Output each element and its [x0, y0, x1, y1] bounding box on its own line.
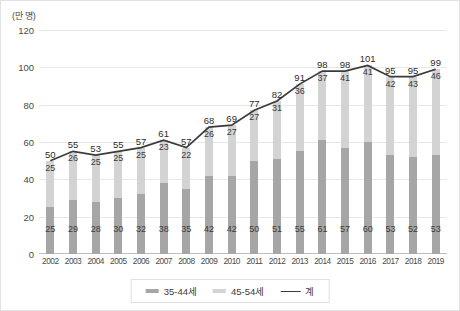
bar-value-label-35-44: 30 — [113, 225, 123, 234]
bar-segment-35-44[interactable] — [182, 189, 190, 254]
bar-segment-35-44[interactable] — [296, 151, 304, 254]
stacked-bar[interactable]: 2530 — [114, 151, 122, 254]
stacked-bar[interactable]: 4352 — [409, 77, 417, 254]
bar-segment-35-44[interactable] — [228, 176, 236, 254]
bar-segment-35-44[interactable] — [160, 183, 168, 254]
total-value-label: 69 — [226, 114, 237, 124]
chart-container: (만 명) 020406080100120 252526292528253025… — [0, 0, 460, 311]
bar-value-label-45-54: 25 — [136, 151, 146, 160]
stacked-bar[interactable]: 3655 — [296, 84, 304, 254]
bar-value-label-35-44: 53 — [431, 225, 441, 234]
bar-segment-35-44[interactable] — [364, 142, 372, 254]
bar-column[interactable]: 2750 — [243, 30, 266, 254]
total-value-label: 98 — [317, 60, 328, 70]
bar-value-label-35-44: 55 — [295, 225, 305, 234]
bar-value-label-35-44: 25 — [45, 225, 55, 234]
x-axis-tick-label: 2011 — [243, 256, 266, 272]
total-value-label: 53 — [90, 144, 101, 154]
stacked-bar[interactable]: 2642 — [205, 127, 213, 254]
stacked-bar[interactable]: 2629 — [69, 151, 77, 254]
total-value-label: 82 — [272, 89, 283, 99]
x-axis-tick-label: 2006 — [130, 256, 153, 272]
y-axis-tick-label: 120 — [18, 25, 34, 36]
stacked-bar[interactable]: 2338 — [160, 140, 168, 254]
bar-value-label-45-54: 42 — [385, 80, 395, 89]
legend-label: 45-54세 — [231, 284, 264, 298]
stacked-bar[interactable]: 4160 — [364, 65, 372, 254]
bar-column[interactable]: 3151 — [266, 30, 289, 254]
stacked-bar[interactable]: 3151 — [273, 101, 281, 254]
bar-segment-35-44[interactable] — [273, 159, 281, 254]
plot-area: 020406080100120 252526292528253025322338… — [39, 30, 447, 254]
bar-segment-35-44[interactable] — [386, 155, 394, 254]
x-axis-tick-label: 2007 — [152, 256, 175, 272]
legend-item[interactable]: 45-54세 — [213, 284, 264, 298]
bar-segment-35-44[interactable] — [341, 148, 349, 254]
legend-line-swatch-icon — [280, 291, 300, 292]
x-axis-tick-label: 2017 — [379, 256, 402, 272]
total-value-label: 95 — [408, 65, 419, 75]
stacked-bar[interactable]: 3761 — [318, 71, 326, 254]
stacked-bar[interactable]: 2528 — [92, 155, 100, 254]
bar-column[interactable]: 2525 — [39, 30, 62, 254]
stacked-bar[interactable]: 2525 — [46, 161, 54, 254]
total-value-label: 50 — [45, 149, 56, 159]
legend-bar-swatch-icon — [146, 289, 159, 293]
legend-label: 계 — [305, 284, 314, 298]
x-axis-tick-label: 2010 — [220, 256, 243, 272]
x-axis-tick-label: 2013 — [288, 256, 311, 272]
bar-segment-35-44[interactable] — [409, 157, 417, 254]
bar-segment-45-54[interactable] — [432, 69, 440, 155]
total-value-label: 57 — [181, 136, 192, 146]
bar-segment-35-44[interactable] — [205, 176, 213, 254]
bar-segment-35-44[interactable] — [318, 140, 326, 254]
stacked-bar[interactable]: 2532 — [137, 148, 145, 254]
total-value-label: 68 — [204, 116, 215, 126]
y-axis-tick-label: 20 — [23, 211, 34, 222]
x-axis-tick-label: 2012 — [266, 256, 289, 272]
bar-column[interactable]: 3655 — [288, 30, 311, 254]
bar-value-label-45-54: 25 — [45, 164, 55, 173]
legend-item[interactable]: 계 — [280, 284, 314, 298]
bar-value-label-35-44: 60 — [363, 225, 373, 234]
bar-value-label-45-54: 25 — [91, 158, 101, 167]
total-value-label: 91 — [294, 73, 305, 83]
bar-segment-35-44[interactable] — [250, 161, 258, 254]
legend-bar-swatch-icon — [213, 289, 226, 293]
x-axis-tick-label: 2016 — [356, 256, 379, 272]
bar-column[interactable]: 2742 — [220, 30, 243, 254]
total-value-label: 55 — [68, 140, 79, 150]
legend-item[interactable]: 35-44세 — [146, 284, 197, 298]
stacked-bar[interactable]: 4157 — [341, 71, 349, 254]
bar-value-label-45-54: 41 — [363, 68, 373, 77]
y-axis-tick-label: 0 — [29, 249, 34, 260]
total-value-label: 99 — [430, 58, 441, 68]
bar-segment-45-54[interactable] — [409, 77, 417, 157]
x-axis-tick-label: 2009 — [198, 256, 221, 272]
x-axis-tick-label: 2002 — [39, 256, 62, 272]
bar-value-label-45-54: 31 — [272, 104, 282, 113]
x-axis-tick-label: 2004 — [84, 256, 107, 272]
bar-column[interactable]: 2642 — [198, 30, 221, 254]
stacked-bar[interactable]: 2235 — [182, 148, 190, 254]
bar-value-label-45-54: 36 — [295, 87, 305, 96]
bar-value-label-45-54: 41 — [340, 74, 350, 83]
total-value-label: 57 — [136, 136, 147, 146]
stacked-bar[interactable]: 2750 — [250, 110, 258, 254]
y-axis-tick-label: 40 — [23, 174, 34, 185]
y-axis-tick-label: 60 — [23, 137, 34, 148]
bar-column[interactable]: 2338 — [152, 30, 175, 254]
stacked-bar[interactable]: 2742 — [228, 125, 236, 254]
stacked-bar[interactable]: 4653 — [432, 69, 440, 254]
bar-value-label-45-54: 22 — [181, 151, 191, 160]
bar-value-label-35-44: 42 — [227, 225, 237, 234]
bar-value-label-35-44: 61 — [317, 225, 327, 234]
bar-value-label-45-54: 46 — [431, 72, 441, 81]
x-axis-tick-label: 2005 — [107, 256, 130, 272]
bar-value-label-35-44: 57 — [340, 225, 350, 234]
y-axis-tick-label: 100 — [18, 62, 34, 73]
stacked-bar[interactable]: 4253 — [386, 77, 394, 254]
bar-segment-35-44[interactable] — [432, 155, 440, 254]
total-value-label: 55 — [113, 140, 124, 150]
bar-value-label-35-44: 29 — [68, 225, 78, 234]
